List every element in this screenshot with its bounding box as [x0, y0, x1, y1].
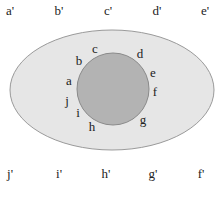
bottom-row-labels: j'i'h'g'f' — [6, 166, 204, 181]
bottom-label-g-prime: g' — [149, 166, 158, 181]
top-label-d-prime: d' — [153, 3, 162, 18]
top-row-labels: a'b'c'd'e' — [6, 3, 209, 18]
circle-label-c: c — [92, 41, 98, 56]
circle-in-ellipse-diagram: a'b'c'd'e' j'i'h'g'f' abcdefghij — [0, 0, 218, 200]
bottom-label-i-prime: i' — [56, 166, 62, 181]
circle-label-i: i — [76, 105, 80, 120]
inner-circle — [77, 53, 149, 125]
top-label-e-prime: e' — [201, 3, 209, 18]
top-label-b-prime: b' — [55, 3, 64, 18]
bottom-label-j-prime: j' — [6, 166, 13, 181]
circle-label-e: e — [150, 65, 156, 80]
bottom-label-h-prime: h' — [102, 166, 111, 181]
circle-label-f: f — [153, 84, 158, 99]
circle-label-h: h — [89, 119, 96, 134]
circle-label-g: g — [140, 112, 147, 127]
bottom-label-f-prime: f' — [198, 166, 205, 181]
circle-label-a: a — [66, 73, 72, 88]
circle-label-b: b — [76, 53, 83, 68]
circle-label-d: d — [137, 46, 144, 61]
top-label-a-prime: a' — [6, 3, 14, 18]
top-label-c-prime: c' — [104, 3, 112, 18]
circle-label-j: j — [64, 93, 69, 108]
